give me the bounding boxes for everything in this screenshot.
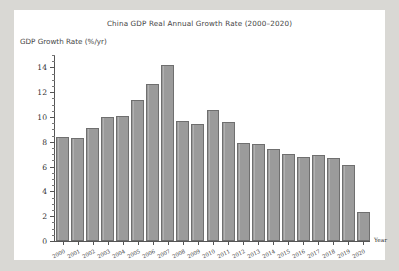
x-tick-label: 2005: [126, 248, 141, 259]
x-tick: [213, 241, 214, 245]
x-tick: [333, 241, 334, 245]
y-tick-minor: [52, 154, 55, 155]
x-tick-label: 2017: [307, 248, 322, 259]
bar-2010: [207, 110, 220, 241]
y-tick-label: 6: [42, 162, 47, 171]
x-tick-label: 2013: [246, 248, 261, 259]
x-tick-label: 2020: [352, 248, 367, 259]
x-tick: [183, 241, 184, 245]
x-tick: [78, 241, 79, 245]
y-tick-minor: [52, 129, 55, 130]
bar-2006: [146, 84, 159, 241]
y-tick-major: [50, 216, 55, 217]
bar-2004: [116, 116, 129, 241]
bar-2007: [161, 65, 174, 241]
bar-2011: [222, 122, 235, 241]
x-tick-label: 2000: [51, 248, 66, 259]
x-tick: [243, 241, 244, 245]
x-tick-label: 2012: [231, 248, 246, 259]
y-tick-minor: [52, 229, 55, 230]
y-tick-major: [50, 241, 55, 242]
y-tick-minor: [52, 210, 55, 211]
x-tick-label: 2016: [292, 248, 307, 259]
x-tick-label: 2019: [337, 248, 352, 259]
x-tick: [318, 241, 319, 245]
x-tick: [348, 241, 349, 245]
y-tick-minor: [52, 185, 55, 186]
x-tick: [138, 241, 139, 245]
y-tick-major: [50, 167, 55, 168]
x-tick-label: 2014: [261, 248, 276, 259]
x-tick: [108, 241, 109, 245]
x-tick-label: 2002: [81, 248, 96, 259]
bar-2017: [312, 155, 325, 241]
x-axis-label: Year: [374, 237, 387, 243]
bar-2014: [267, 149, 280, 241]
y-tick-minor: [52, 179, 55, 180]
x-tick-label: 2010: [201, 248, 216, 259]
bar-2018: [327, 158, 340, 241]
y-tick-minor: [52, 173, 55, 174]
y-tick-minor: [52, 123, 55, 124]
y-tick-label: 0: [42, 237, 47, 246]
bar-2016: [297, 157, 310, 241]
plot-area: 02468101214 2000200120022003200420052006…: [54, 47, 376, 243]
x-tick-label: 2008: [171, 248, 186, 259]
y-tick-label: 14: [37, 63, 47, 72]
bar-2012: [237, 143, 250, 241]
y-axis-label: GDP Growth Rate (%/yr): [20, 37, 107, 46]
x-tick-label: 2004: [111, 248, 126, 259]
x-tick-label: 2001: [66, 248, 81, 259]
y-tick-label: 8: [42, 137, 47, 146]
y-tick-minor: [52, 235, 55, 236]
chart-card: China GDP Real Annual Growth Rate (2000–…: [14, 10, 385, 260]
bar-2013: [252, 144, 265, 241]
x-tick-label: 2003: [96, 248, 111, 259]
y-tick-label: 4: [42, 187, 47, 196]
y-tick-major: [50, 191, 55, 192]
bar-2009: [191, 124, 204, 241]
x-tick: [168, 241, 169, 245]
y-tick-major: [50, 117, 55, 118]
x-tick: [273, 241, 274, 245]
y-tick-minor: [52, 222, 55, 223]
y-tick-minor: [52, 105, 55, 106]
x-tick: [153, 241, 154, 245]
y-tick-minor: [52, 55, 55, 56]
bar-2001: [71, 138, 84, 241]
y-tick-minor: [52, 198, 55, 199]
x-tick: [198, 241, 199, 245]
y-tick-label: 12: [37, 88, 47, 97]
bar-2019: [342, 165, 355, 241]
y-tick-minor: [52, 80, 55, 81]
y-tick-minor: [52, 204, 55, 205]
x-tick: [228, 241, 229, 245]
x-tick-label: 2011: [216, 248, 231, 259]
x-tick-label: 2018: [322, 248, 337, 259]
y-tick-minor: [52, 61, 55, 62]
bar-2000: [56, 137, 69, 241]
bar-2008: [176, 121, 189, 241]
bar-2020: [357, 212, 370, 241]
x-tick: [363, 241, 364, 245]
y-tick-minor: [52, 98, 55, 99]
y-tick-minor: [52, 160, 55, 161]
x-tick-label: 2006: [141, 248, 156, 259]
y-tick-major: [50, 142, 55, 143]
x-tick: [93, 241, 94, 245]
y-tick-major: [50, 92, 55, 93]
chart-title: China GDP Real Annual Growth Rate (2000–…: [14, 19, 385, 28]
x-tick: [63, 241, 64, 245]
y-tick-minor: [52, 86, 55, 87]
x-tick: [123, 241, 124, 245]
y-tick-minor: [52, 136, 55, 137]
bar-2015: [282, 154, 295, 241]
x-tick-label: 2007: [156, 248, 171, 259]
x-axis-line: [54, 241, 370, 242]
y-tick-label: 2: [42, 212, 47, 221]
bar-2003: [101, 117, 114, 241]
y-tick-major: [50, 67, 55, 68]
x-tick: [303, 241, 304, 245]
y-tick-minor: [52, 74, 55, 75]
x-tick: [258, 241, 259, 245]
